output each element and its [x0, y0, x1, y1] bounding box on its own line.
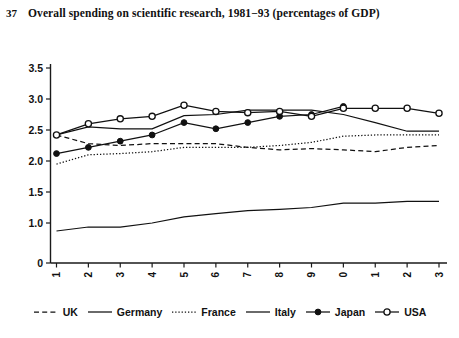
series-marker-usa	[340, 105, 346, 111]
x-axis-tick-label: 1992	[402, 272, 413, 278]
y-axis-tick-label: 1.5	[28, 186, 43, 198]
legend-label: USA	[404, 306, 426, 318]
chart-legend: UKGermanyFranceItalyJapanUSA	[0, 300, 459, 324]
chart-plot-area: 01.01.52.02.53.03.5198119821983198419851…	[0, 26, 459, 278]
figure-number: 37	[6, 6, 28, 20]
x-axis-tick-label: 1987	[242, 272, 253, 278]
series-marker-japan	[54, 151, 60, 157]
series-marker-japan	[85, 144, 91, 150]
series-marker-japan	[117, 138, 123, 144]
figure-root: 37 Overall spending on scientific resear…	[0, 0, 459, 338]
legend-item-france[interactable]: France	[171, 306, 235, 318]
x-axis-tick-label: 1985	[179, 272, 190, 278]
legend-swatch-usa	[374, 307, 400, 317]
series-line-france	[57, 135, 440, 164]
y-axis-tick-label: 1.0	[28, 217, 43, 229]
x-axis-tick-label: 1989	[306, 272, 317, 278]
series-line-italy	[57, 201, 440, 231]
series-marker-usa	[308, 113, 314, 119]
x-axis-tick-label: 1986	[210, 272, 221, 278]
x-axis-tick-label: 1983	[115, 272, 126, 278]
legend-swatch-germany	[87, 307, 113, 317]
y-axis-tick-label: 0	[37, 257, 43, 269]
legend-swatch-france	[171, 307, 197, 317]
legend-swatch-italy	[245, 307, 271, 317]
series-marker-japan	[213, 126, 219, 132]
series-marker-japan	[181, 120, 187, 126]
legend-item-uk[interactable]: UK	[33, 306, 78, 318]
legend-label: France	[201, 306, 235, 318]
legend-swatch-japan	[305, 307, 331, 317]
legend-label: UK	[63, 306, 78, 318]
legend-item-germany[interactable]: Germany	[87, 306, 163, 318]
series-marker-usa	[245, 110, 251, 116]
legend-label: Germany	[117, 306, 163, 318]
line-chart: 01.01.52.02.53.03.5198119821983198419851…	[0, 26, 459, 278]
figure-title: 37 Overall spending on scientific resear…	[0, 6, 459, 26]
series-marker-usa	[117, 116, 123, 122]
x-axis-tick-label: 1984	[147, 272, 158, 278]
legend-label: Japan	[335, 306, 365, 318]
series-marker-usa	[436, 110, 442, 116]
x-axis-tick-label: 1991	[370, 272, 381, 278]
y-axis-tick-label: 2.5	[28, 124, 43, 136]
x-axis-tick-label: 1990	[338, 272, 349, 278]
series-marker-japan	[245, 120, 251, 126]
series-marker-usa	[181, 102, 187, 108]
series-marker-usa	[372, 105, 378, 111]
y-axis-tick-label: 3.0	[28, 93, 43, 105]
legend-item-usa[interactable]: USA	[374, 306, 426, 318]
series-marker-usa	[213, 108, 219, 114]
series-marker-usa	[53, 132, 59, 138]
series-marker-japan	[149, 132, 155, 138]
page-title: Overall spending on scientific research,…	[28, 6, 380, 20]
series-marker-usa	[404, 105, 410, 111]
series-marker-usa	[149, 113, 155, 119]
y-axis-tick-label: 3.5	[28, 62, 43, 74]
legend-item-italy[interactable]: Italy	[245, 306, 296, 318]
x-axis-tick-label: 1982	[83, 272, 94, 278]
series-line-japan	[57, 106, 344, 153]
x-axis-tick-label: 1993	[434, 272, 445, 278]
x-axis-tick-label: 1988	[274, 272, 285, 278]
legend-swatch-uk	[33, 307, 59, 317]
legend-item-japan[interactable]: Japan	[305, 306, 365, 318]
x-axis-tick-label: 1981	[51, 272, 62, 278]
series-marker-usa	[85, 121, 91, 127]
series-marker-usa	[277, 108, 283, 114]
series-line-uk	[57, 135, 440, 152]
legend-label: Italy	[275, 306, 296, 318]
y-axis-tick-label: 2.0	[28, 155, 43, 167]
